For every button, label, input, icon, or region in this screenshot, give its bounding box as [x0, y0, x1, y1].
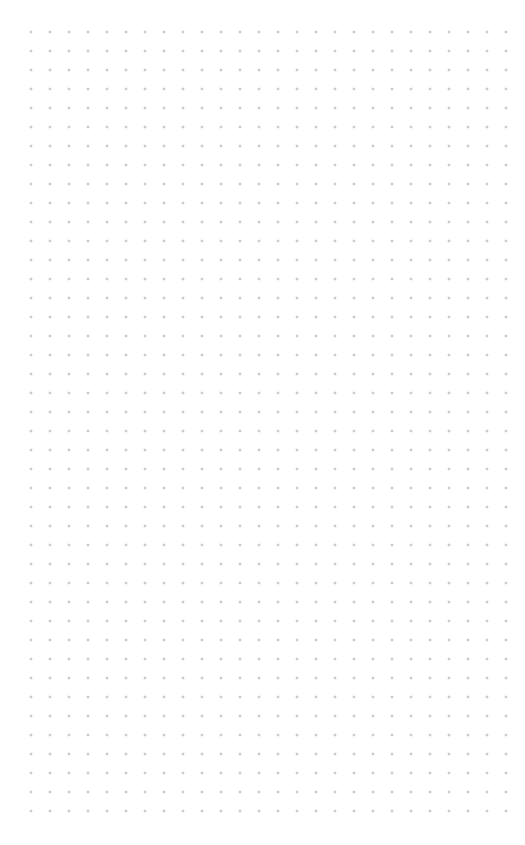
- dot-grid-canvas[interactable]: [0, 0, 525, 845]
